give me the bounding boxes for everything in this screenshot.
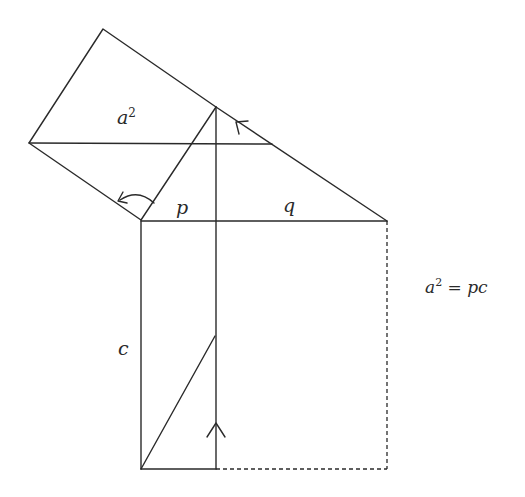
label-p: p bbox=[176, 198, 188, 217]
eq-equals: = bbox=[442, 277, 467, 297]
eq-rhs: pc bbox=[467, 277, 487, 297]
eq-lhs-base: a bbox=[425, 277, 435, 297]
equation-a2-equals-pc: a2 = pc bbox=[425, 279, 488, 296]
diagram-canvas bbox=[0, 0, 525, 497]
label-a-exp: 2 bbox=[128, 106, 136, 120]
label-q: q bbox=[283, 196, 295, 215]
label-a-base: a bbox=[117, 106, 128, 128]
label-a-squared: a2 bbox=[117, 108, 136, 127]
shear-line-horizontal bbox=[29, 143, 272, 144]
rotation-arc-icon bbox=[120, 195, 154, 203]
rect-shear-diagonal bbox=[141, 336, 215, 469]
label-c: c bbox=[118, 339, 129, 358]
hypotenuse-b bbox=[216, 107, 387, 221]
